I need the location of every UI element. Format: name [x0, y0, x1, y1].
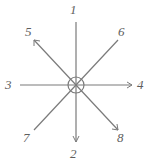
- ray-label-7: 7: [23, 131, 30, 144]
- ray-star-diagram: 1 2 3 4 5 6 7 8: [0, 0, 152, 167]
- ray-label-3: 3: [5, 78, 12, 91]
- ray-label-8: 8: [117, 131, 124, 144]
- ray-label-1: 1: [70, 3, 77, 16]
- ray-label-4: 4: [137, 78, 144, 91]
- ray-label-2: 2: [70, 147, 77, 160]
- ray-line-5: [34, 40, 76, 85]
- ray-line-7: [34, 85, 76, 130]
- ray-label-6: 6: [118, 25, 125, 38]
- ray-line-6: [76, 40, 118, 85]
- ray-label-5: 5: [25, 25, 32, 38]
- ray-line-8: [76, 85, 118, 130]
